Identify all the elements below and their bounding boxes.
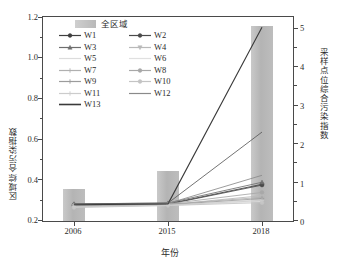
legend-label-w5: W5 bbox=[84, 54, 96, 63]
legend-marker-w11 bbox=[59, 89, 81, 98]
legend-item-w13[interactable]: W13 bbox=[59, 100, 129, 109]
tick-right-minor-4 bbox=[294, 47, 297, 48]
tick-right-major-3 bbox=[294, 105, 298, 106]
tick-left-minor-0 bbox=[40, 200, 43, 201]
legend-label-w3: W3 bbox=[84, 43, 96, 52]
tick-left-major-2 bbox=[38, 139, 42, 140]
legend-marker-w2 bbox=[129, 31, 151, 40]
legend-marker-w1 bbox=[59, 31, 81, 40]
legend-label-w11: W11 bbox=[84, 89, 100, 98]
legend-item-w5[interactable]: W5 bbox=[59, 54, 129, 63]
legend-label-w1: W1 bbox=[84, 31, 96, 40]
legend-item-w4[interactable]: W4 bbox=[129, 43, 199, 52]
legend-label-w10: W10 bbox=[154, 77, 171, 86]
legend-item-region[interactable]: 全区域 bbox=[75, 20, 209, 29]
tick-right-major-4 bbox=[294, 66, 298, 67]
legend-label-w13: W13 bbox=[84, 100, 101, 109]
legend-item-w1[interactable]: W1 bbox=[59, 31, 129, 40]
tick-bottom-2006 bbox=[74, 222, 75, 226]
legend-label-w4: W4 bbox=[154, 43, 166, 52]
y-tick-right-0: 0 bbox=[300, 217, 320, 227]
tick-bottom-2018 bbox=[262, 222, 263, 226]
legend-label-w8: W8 bbox=[154, 66, 166, 75]
plot-area: 全区域 W1W2W3W4W5W6W7W8W9W10W11W12W13 bbox=[42, 16, 294, 222]
x-axis-title: 年份 bbox=[0, 246, 340, 259]
tick-right-minor-1 bbox=[294, 162, 297, 163]
legend-marker-w5 bbox=[59, 54, 81, 63]
legend-label-region: 全区域 bbox=[101, 20, 128, 29]
y-tick-right-5: 5 bbox=[300, 23, 320, 33]
y-tick-left-2: 0.8 bbox=[12, 93, 38, 103]
legend-label-w2: W2 bbox=[154, 31, 166, 40]
legend-marker-w6 bbox=[129, 54, 151, 63]
tick-left-major-4 bbox=[38, 57, 42, 58]
tick-left-minor-2 bbox=[40, 118, 43, 119]
legend-marker-w10 bbox=[129, 77, 151, 86]
y-tick-right-4: 4 bbox=[300, 62, 320, 72]
legend-marker-w7 bbox=[59, 66, 81, 75]
tick-left-minor-1 bbox=[40, 159, 43, 160]
y-tick-left-4: 0.4 bbox=[12, 175, 38, 185]
legend-item-w6[interactable]: W6 bbox=[129, 54, 199, 63]
y-tick-right-3: 3 bbox=[300, 101, 320, 111]
legend-item-w7[interactable]: W7 bbox=[59, 66, 129, 75]
x-tick-2006: 2006 bbox=[43, 226, 103, 236]
tick-bottom-2015 bbox=[168, 222, 169, 226]
line-series-W3-group-high bbox=[74, 132, 262, 204]
legend-item-w8[interactable]: W8 bbox=[129, 66, 199, 75]
legend-marker-w9 bbox=[59, 77, 81, 86]
tick-right-major-5 bbox=[294, 28, 298, 29]
legend-series-grid: W1W2W3W4W5W6W7W8W9W10W11W12W13 bbox=[59, 31, 209, 109]
legend-item-w3[interactable]: W3 bbox=[59, 43, 129, 52]
tick-left-minor-4 bbox=[40, 37, 43, 38]
legend-swatch-region bbox=[75, 20, 96, 28]
tick-right-major-2 bbox=[294, 143, 298, 144]
legend-label-w6: W6 bbox=[154, 54, 166, 63]
tick-right-major-1 bbox=[294, 182, 298, 183]
legend-item-w11[interactable]: W11 bbox=[59, 89, 129, 98]
tick-left-major-1 bbox=[38, 179, 42, 180]
legend-marker-w8 bbox=[129, 66, 151, 75]
tick-right-minor-2 bbox=[294, 124, 297, 125]
y-tick-left-0: 1.2 bbox=[12, 12, 38, 22]
legend-marker-w12 bbox=[129, 89, 151, 98]
y-tick-left-1: 1.0 bbox=[12, 52, 38, 62]
x-tick-2015: 2015 bbox=[137, 226, 197, 236]
legend-label-w7: W7 bbox=[84, 66, 96, 75]
y-tick-right-1: 1 bbox=[300, 179, 320, 189]
x-tick-2018: 2018 bbox=[231, 226, 291, 236]
y-tick-left-5: 0.2 bbox=[12, 215, 38, 225]
legend-item-w10[interactable]: W10 bbox=[129, 77, 199, 86]
legend-item-w2[interactable]: W2 bbox=[129, 31, 199, 40]
tick-right-major-0 bbox=[294, 220, 298, 221]
legend: 全区域 W1W2W3W4W5W6W7W8W9W10W11W12W13 bbox=[59, 20, 209, 109]
tick-left-minor-3 bbox=[40, 78, 43, 79]
tick-right-minor-3 bbox=[294, 85, 297, 86]
legend-label-w9: W9 bbox=[84, 77, 96, 86]
tick-left-major-3 bbox=[38, 98, 42, 99]
legend-item-w9[interactable]: W9 bbox=[59, 77, 129, 86]
tick-right-minor-0 bbox=[294, 201, 297, 202]
legend-marker-w3 bbox=[59, 43, 81, 52]
legend-item-w12[interactable]: W12 bbox=[129, 89, 199, 98]
tick-left-major-0 bbox=[38, 220, 42, 221]
legend-marker-w13 bbox=[59, 100, 81, 109]
legend-label-w12: W12 bbox=[154, 89, 171, 98]
y-tick-right-2: 2 bbox=[300, 140, 320, 150]
chart-figure: 区域综合污染指数 采样点位综合污染指数 年份 1.2 1.0 0.8 0.6 0… bbox=[0, 0, 340, 268]
y-tick-left-3: 0.6 bbox=[12, 134, 38, 144]
legend-marker-w4 bbox=[129, 43, 151, 52]
tick-left-major-5 bbox=[38, 17, 42, 18]
